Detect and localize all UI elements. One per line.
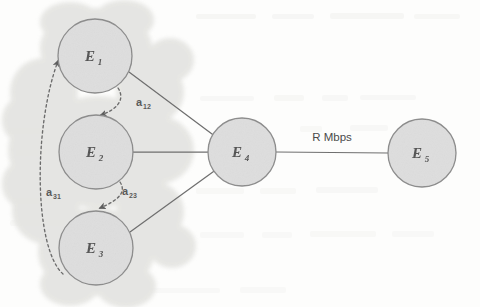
node-e5-label: E — [411, 145, 422, 161]
node-e4[interactable]: E 4 — [208, 118, 276, 186]
figure-container: E 1 E 2 E 3 E 4 E 5 — [0, 0, 480, 307]
edge-label-a23-subscript: 23 — [129, 192, 137, 199]
node-e1-label: E — [84, 48, 95, 64]
edge-e4-e5 — [276, 152, 388, 153]
node-e3[interactable]: E 3 — [59, 211, 133, 285]
edge-label-a12-subscript: 12 — [143, 103, 151, 110]
link-capacity-label: R Mbps — [312, 131, 352, 143]
node-e5-subscript: 5 — [425, 154, 430, 164]
node-e2[interactable]: E 2 — [59, 115, 133, 189]
node-e3-subscript: 3 — [98, 249, 104, 259]
node-e3-label: E — [85, 240, 96, 256]
node-e4-subscript: 4 — [244, 153, 250, 163]
node-e2-label: E — [85, 144, 96, 160]
network-diagram-canvas: E 1 E 2 E 3 E 4 E 5 — [0, 0, 480, 307]
nodes: E 1 E 2 E 3 E 4 E 5 — [58, 19, 456, 285]
edge-label-a31-base: a — [46, 186, 53, 198]
node-e4-label: E — [231, 144, 242, 160]
node-e2-subscript: 2 — [98, 153, 104, 163]
edge-label-a31-subscript: 31 — [53, 193, 61, 200]
node-e1-subscript: 1 — [98, 57, 103, 67]
node-e5[interactable]: E 5 — [388, 119, 456, 187]
edge-label-a12-base: a — [136, 96, 143, 108]
node-e1[interactable]: E 1 — [58, 19, 132, 93]
edge-label-a23-base: a — [122, 185, 129, 197]
